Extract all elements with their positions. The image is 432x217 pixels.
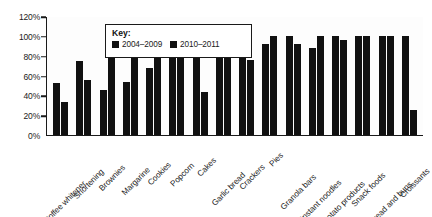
- chart-legend: Key: 2004–20092010–2011: [105, 24, 252, 58]
- bar-group: [49, 17, 72, 135]
- bar: [363, 36, 370, 135]
- y-axis-tick-label: 60%: [24, 72, 40, 82]
- bar: [154, 48, 161, 135]
- bar: [193, 46, 200, 135]
- legend-swatch-icon: [170, 41, 177, 48]
- legend-item: 2010–2011: [170, 40, 219, 49]
- bar: [262, 44, 269, 135]
- legend-item: 2004–2009: [112, 40, 162, 49]
- bar: [317, 36, 324, 135]
- bar: [169, 54, 176, 135]
- y-axis-tick-label: 120%: [19, 12, 40, 22]
- legend-label: 2010–2011: [180, 40, 219, 49]
- y-axis: 120%100%80%60%40%20%0%: [0, 0, 46, 153]
- legend-title: Key:: [112, 28, 246, 38]
- y-axis-tick-label: 0%: [28, 131, 40, 141]
- bar: [340, 40, 347, 135]
- x-axis-labels: Coffee whitenerShorteningBrowniesMargari…: [46, 136, 423, 217]
- bar: [108, 52, 115, 135]
- bar: [379, 36, 386, 135]
- legend-label: 2004–2009: [122, 40, 162, 49]
- plot-area: Key: 2004–20092010–2011: [46, 17, 423, 136]
- y-axis-tick-label: 40%: [24, 91, 40, 101]
- bar: [131, 51, 138, 135]
- bar: [309, 48, 316, 135]
- bar-group: [375, 17, 398, 135]
- bar: [332, 36, 339, 135]
- x-axis-tick-label: Cakes: [195, 156, 217, 178]
- bar: [123, 82, 130, 135]
- x-axis-tick-label: Popcorn: [169, 161, 196, 188]
- bar: [84, 80, 91, 135]
- x-axis-tick-label: Cookies: [146, 160, 173, 187]
- y-axis-tick-label: 100%: [19, 32, 40, 42]
- bar: [53, 83, 60, 135]
- legend-swatch-icon: [112, 41, 119, 48]
- bar: [146, 68, 153, 135]
- bar: [177, 48, 184, 135]
- bar-group: [72, 17, 95, 135]
- legend-items: 2004–20092010–2011: [112, 40, 246, 49]
- bar: [294, 44, 301, 135]
- bar: [100, 90, 107, 135]
- bar-group: [305, 17, 328, 135]
- bar: [270, 36, 277, 135]
- bar: [402, 36, 409, 135]
- y-axis-tick-label: 80%: [24, 52, 40, 62]
- bar: [355, 36, 362, 135]
- bar-group: [328, 17, 351, 135]
- bar-chart: 120%100%80%60%40%20%0% Key: 2004–2009201…: [0, 0, 432, 217]
- bar: [201, 92, 208, 135]
- y-axis-tick-label: 20%: [24, 111, 40, 121]
- bar-group: [398, 17, 421, 135]
- bar: [247, 60, 254, 135]
- bar: [61, 102, 68, 135]
- bar: [410, 110, 417, 135]
- bar: [286, 36, 293, 135]
- x-axis-tick-label: Pies: [268, 151, 285, 168]
- bar-group: [351, 17, 374, 135]
- bar-group: [282, 17, 305, 135]
- bar-group: [258, 17, 281, 135]
- bar: [387, 36, 394, 135]
- bar: [76, 61, 83, 135]
